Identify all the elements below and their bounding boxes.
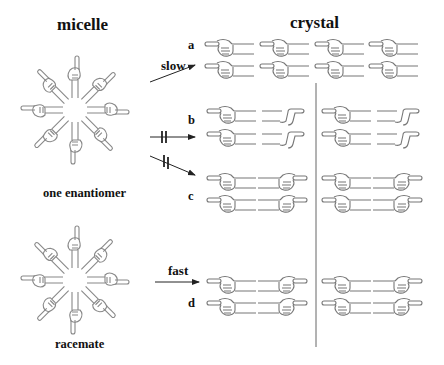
diagram-graphics bbox=[0, 0, 444, 365]
diagram-canvas: micelle crystal one enantiomer racemate … bbox=[0, 0, 444, 365]
label-slow: slow bbox=[161, 59, 186, 72]
blocked-mark-c bbox=[164, 155, 168, 169]
row-label-b: b bbox=[188, 114, 195, 127]
crystal-row-b bbox=[207, 107, 419, 149]
crystal-row-d bbox=[207, 277, 422, 316]
title-micelle: micelle bbox=[57, 16, 108, 33]
row-label-c: c bbox=[188, 190, 194, 203]
row-label-a: a bbox=[188, 39, 194, 52]
caption-racemate: racemate bbox=[55, 338, 104, 351]
caption-one-enantiomer: one enantiomer bbox=[43, 187, 126, 200]
arrow-blocked-c bbox=[150, 156, 195, 175]
label-fast: fast bbox=[168, 264, 188, 277]
title-crystal: crystal bbox=[290, 14, 339, 31]
micelle-one-enantiomer bbox=[21, 56, 129, 164]
row-label-d: d bbox=[188, 297, 195, 310]
micelle-racemate bbox=[21, 226, 129, 334]
crystal-row-a bbox=[205, 40, 418, 79]
crystal-row-c bbox=[207, 174, 422, 213]
